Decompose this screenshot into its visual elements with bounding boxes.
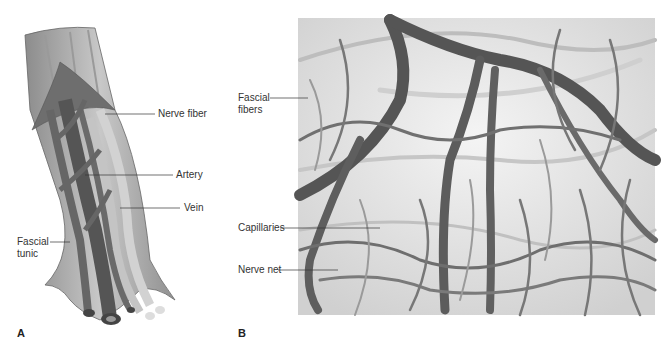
panel-label-a: A [17, 327, 25, 339]
panel-label-b: B [238, 327, 246, 339]
label-capillaries: Capillaries [238, 222, 285, 234]
label-nerve-net: Nerve net [238, 264, 281, 276]
label-fascial-tunic: Fascial tunic [17, 236, 49, 260]
label-fascial-fibers: Fascial fibers [238, 92, 270, 116]
label-artery: Artery [176, 169, 203, 181]
label-vein: Vein [184, 202, 203, 214]
panel-a-illustration [0, 0, 669, 354]
label-nerve-fiber: Nerve fiber [158, 108, 207, 120]
